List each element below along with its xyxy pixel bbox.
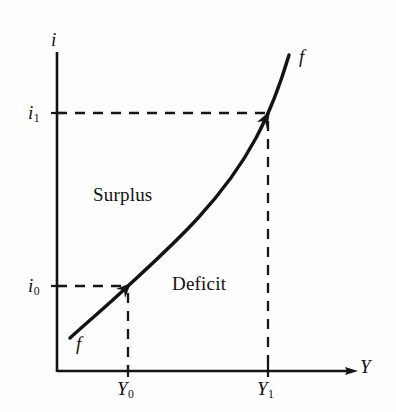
tick-label-Y1-base: Y: [257, 378, 268, 399]
diagram-canvas: [0, 0, 396, 412]
tick-label-Y1: Y1: [257, 379, 274, 401]
tick-label-Y0-base: Y: [117, 378, 128, 399]
tick-label-Y1-sub: 1: [268, 388, 274, 401]
tick-label-i0: i0: [28, 276, 40, 298]
tick-marks-group: [51, 113, 268, 377]
figure-container: i Y i1 i0 Y0 Y1 f f Surplus Deficit: [0, 0, 396, 412]
tick-label-i0-sub: 0: [33, 285, 39, 298]
tick-label-i1: i1: [28, 103, 40, 125]
y-axis-label: i: [51, 30, 56, 49]
curve-label-lower-f: f: [76, 334, 81, 353]
x-axis-label: Y: [360, 357, 371, 376]
guide-lines-group: [57, 113, 268, 370]
deficit-region-label: Deficit: [172, 274, 226, 293]
tick-label-i1-sub: 1: [33, 112, 39, 125]
tick-label-Y0-sub: 0: [128, 388, 134, 401]
x-axis-group: [57, 367, 358, 375]
surplus-region-label: Surplus: [93, 185, 152, 204]
tick-label-Y0: Y0: [117, 379, 134, 401]
curve-label-upper-f: f: [299, 47, 304, 66]
